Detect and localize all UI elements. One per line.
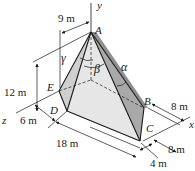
dim-label-18m: 18 m <box>56 137 79 149</box>
z-axis-label: z <box>1 114 7 126</box>
dim-label-4m: 4 m <box>150 157 167 169</box>
point-e-label: E <box>46 81 54 93</box>
point-c-label: C <box>146 122 154 134</box>
dim-label-6m: 6 m <box>20 114 37 126</box>
dim-label-8m-lower: 8 m <box>168 143 185 155</box>
y-axis-label: y <box>96 0 102 11</box>
angle-alpha-label: α <box>121 60 128 74</box>
pyramid-faces <box>59 32 148 141</box>
angle-beta-label: β <box>93 62 100 76</box>
dim-label-9m: 9 m <box>58 12 75 24</box>
dim-label-8m-upper: 8 m <box>171 100 188 112</box>
point-a-label: A <box>94 24 102 36</box>
angle-gamma-label: γ <box>61 51 66 65</box>
point-b-label: B <box>144 95 151 107</box>
pyramid-diagram: 9 m 12 m z 6 m 18 m x 8 m 8 m 4 m A y B … <box>0 0 195 171</box>
dim-label-12m: 12 m <box>4 86 27 98</box>
x-axis-label: x <box>188 118 194 130</box>
point-d-label: D <box>49 104 58 116</box>
